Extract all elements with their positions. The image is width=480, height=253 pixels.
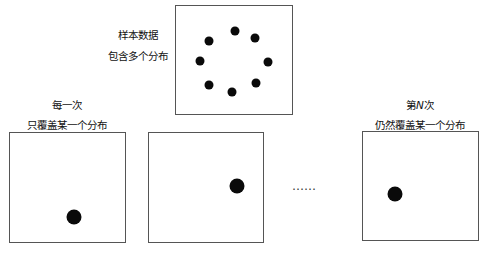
nth-label-prefix: 第 xyxy=(406,99,416,111)
nth-label: 第N次 仍然覆盖某一个分布 xyxy=(375,98,465,132)
sample-dot xyxy=(251,34,260,43)
first-iteration-box xyxy=(9,132,126,243)
sample-dot xyxy=(228,88,237,97)
first-label: 每一次 只覆盖某一个分布 xyxy=(27,98,107,132)
sample-dot xyxy=(205,81,214,90)
sample-label-line2: 包含多个分布 xyxy=(108,49,168,63)
nth-iteration-dot xyxy=(388,187,403,202)
nth-label-line2: 仍然覆盖某一个分布 xyxy=(375,118,465,132)
sample-label-line1: 样本数据 xyxy=(108,28,168,42)
nth-label-var: N xyxy=(416,99,424,111)
second-iteration-dot xyxy=(230,179,245,194)
nth-label-suffix: 次 xyxy=(424,99,434,111)
second-iteration-box xyxy=(148,132,264,243)
sample-data-box xyxy=(175,5,293,115)
sample-dot xyxy=(196,57,205,66)
sample-label: 样本数据 包含多个分布 xyxy=(108,28,168,63)
sample-dot xyxy=(264,58,273,67)
first-label-line1: 每一次 xyxy=(27,98,107,112)
sample-dot xyxy=(205,37,214,46)
first-iteration-dot xyxy=(67,210,82,225)
sample-dot xyxy=(231,27,240,36)
first-label-line2: 只覆盖某一个分布 xyxy=(27,118,107,132)
sample-dot xyxy=(252,79,261,88)
ellipsis: …… xyxy=(292,179,316,193)
nth-iteration-box xyxy=(362,131,479,241)
nth-label-line1: 第N次 xyxy=(375,98,465,112)
